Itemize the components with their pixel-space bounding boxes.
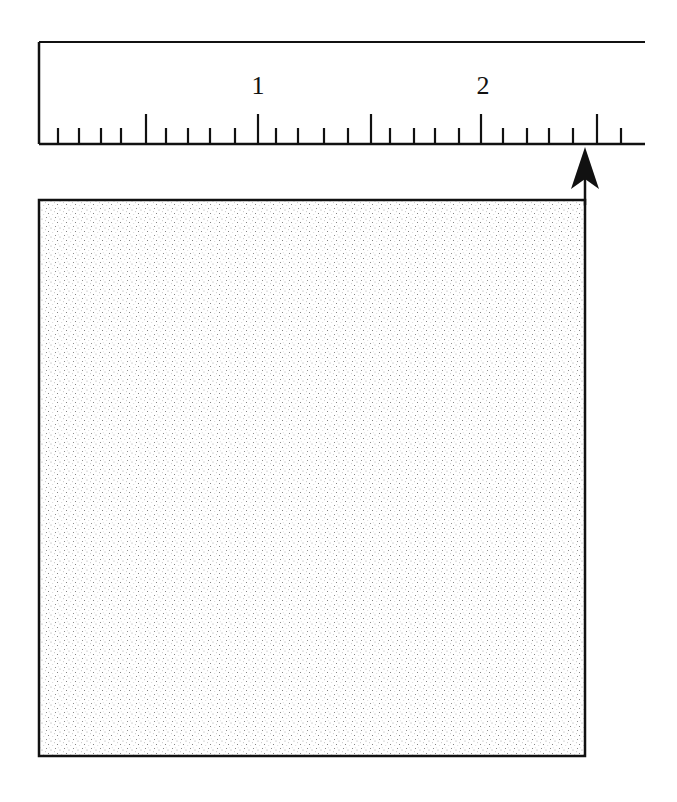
diagram-canvas bbox=[0, 0, 677, 802]
ruler-ticks bbox=[58, 114, 621, 144]
stippled-square bbox=[39, 200, 585, 756]
measurement-diagram: 1 2 bbox=[0, 0, 677, 802]
ruler bbox=[39, 42, 645, 144]
arrow-up-icon bbox=[571, 147, 599, 205]
ruler-label-2: 2 bbox=[477, 73, 490, 99]
ruler-label-1: 1 bbox=[252, 73, 265, 99]
